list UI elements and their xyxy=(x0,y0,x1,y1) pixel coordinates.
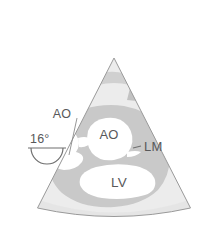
transducer-icon xyxy=(28,148,66,164)
label-lv: LV xyxy=(111,175,127,190)
label-ao-outflow: AO xyxy=(53,107,72,121)
label-ao-root: AO xyxy=(99,127,118,142)
echocardiogram-figure: 16° AO AO LM LV xyxy=(0,0,214,228)
angle-label: 16° xyxy=(30,132,50,146)
echo-diagram-svg: 16° AO AO LM LV xyxy=(0,0,214,228)
sector-group xyxy=(30,58,198,228)
label-lm: LM xyxy=(144,139,162,154)
transducer-dome xyxy=(31,148,63,164)
